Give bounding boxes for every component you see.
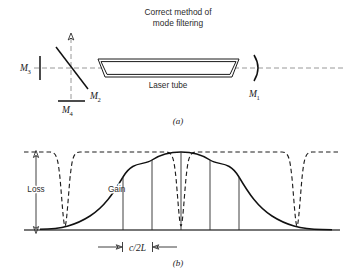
mirror-m3-subscript: 3 [28,68,32,75]
figure-canvas: Correct method of mode filtering M 3 M 2… [0,0,356,273]
mode-spacing-label: c/2L [129,243,146,253]
panel-a-caption: (a) [173,116,184,126]
mirror-m4-subscript: 4 [70,110,74,117]
gain-curve [40,152,332,230]
panel-b-plot: Loss Gain c/2L [24,151,340,269]
panel-b-caption: (b) [173,258,184,268]
panel-a-schematic: M 3 M 2 M 4 Laser tube M 1 (a) [19,33,344,126]
title-line-1: Correct method of [144,7,212,17]
loss-curve [24,152,340,226]
mode-spacing-dimension: c/2L [98,242,177,253]
figure-title: Correct method of mode filtering [144,7,212,28]
loss-label: Loss [27,185,44,194]
mirror-m1-subscript: 1 [257,94,260,101]
title-line-2: mode filtering [153,18,204,28]
mirror-m2-subscript: 2 [98,96,101,103]
figure-root: Correct method of mode filtering M 3 M 2… [0,0,356,273]
laser-tube-label: Laser tube [149,81,188,90]
